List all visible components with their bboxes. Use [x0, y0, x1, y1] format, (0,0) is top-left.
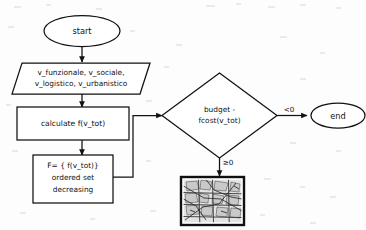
node-map[interactable] [181, 177, 244, 225]
node-input-line2: v_logistico, v_urbanistico [35, 79, 128, 88]
node-calculate[interactable]: calculate f(v_tot) [17, 107, 129, 140]
node-decision-line2: fcost(v_tot) [198, 116, 240, 125]
node-start-label: start [72, 26, 92, 36]
edge-label-negative: <0 [284, 105, 295, 114]
map-thumbnail-image [183, 180, 242, 223]
node-ordered-set[interactable]: F= { f(v_tot)} ordered set decreasing [33, 155, 113, 203]
node-ordered-set-line3: decreasing [53, 185, 94, 194]
edge-decision-to-end: <0 [277, 105, 307, 116]
node-calculate-label: calculate f(v_tot) [41, 119, 105, 128]
node-start[interactable]: start [44, 16, 120, 47]
edge-label-non-negative: ≥0 [223, 158, 234, 167]
node-ordered-set-line1: F= { f(v_tot)} [47, 161, 98, 170]
flowchart-page: <0 ≥0 start v_funzionale, v_sociale, v_l… [0, 0, 366, 230]
node-input-line1: v_funzionale, v_sociale, [37, 68, 124, 77]
node-decision-line1: budget - [204, 105, 236, 114]
node-end-label: end [330, 111, 345, 121]
node-input[interactable]: v_funzionale, v_sociale, v_logistico, v_… [12, 63, 150, 94]
node-decision[interactable]: budget - fcost(v_tot) [162, 73, 277, 158]
node-end[interactable]: end [311, 103, 365, 128]
flowchart-canvas: <0 ≥0 start v_funzionale, v_sociale, v_l… [0, 0, 366, 230]
node-ordered-set-line2: ordered set [52, 173, 95, 182]
